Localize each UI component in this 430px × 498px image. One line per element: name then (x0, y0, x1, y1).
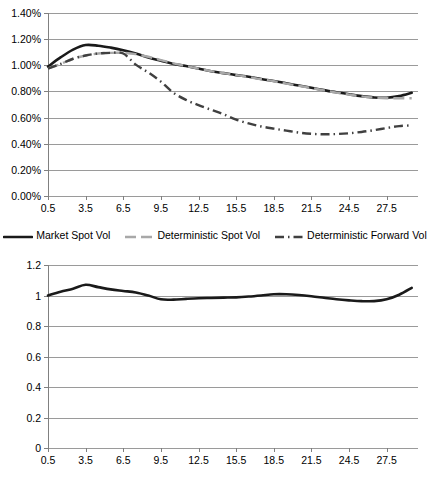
legend-swatch-icon (124, 229, 154, 241)
volatility-chart: 0.00%0.20%0.40%0.60%0.80%1.00%1.20%1.40%… (0, 0, 430, 250)
y-axis-tick-label: 1.2 (26, 259, 41, 271)
x-axis-tick-label: 9.5 (154, 202, 169, 214)
series-line (48, 52, 412, 134)
y-axis-tick-label: 0.80% (11, 85, 41, 97)
legend-swatch-icon (274, 229, 304, 241)
series-line (48, 285, 412, 302)
x-axis-tick-label: 18.5 (264, 454, 285, 466)
legend-label: Deterministic Spot Vol (157, 229, 260, 241)
x-axis-tick-label: 3.5 (78, 454, 93, 466)
x-axis-tick-label: 18.5 (264, 202, 285, 214)
x-axis-tick-label: 12.5 (188, 454, 209, 466)
volatility-chart-legend: Market Spot VolDeterministic Spot VolDet… (0, 229, 430, 241)
y-axis-tick-label: 0.00% (11, 190, 41, 202)
x-axis-tick-label: 6.5 (116, 202, 131, 214)
volatility-chart-plot: 0.00%0.20%0.40%0.60%0.80%1.00%1.20%1.40%… (0, 0, 430, 228)
x-axis-tick-label: 21.5 (301, 454, 322, 466)
x-axis-tick-label: 0.5 (41, 202, 56, 214)
y-axis-tick-label: 0.4 (26, 381, 41, 393)
x-axis-tick-label: 24.5 (339, 202, 360, 214)
x-axis-tick-label: 0.5 (41, 454, 56, 466)
x-axis-tick-label: 15.5 (226, 202, 247, 214)
legend-label: Market Spot Vol (36, 229, 110, 241)
correction-chart-plot: 00.20.40.60.811.20.53.56.59.512.515.518.… (0, 250, 430, 488)
correction-chart: 00.20.40.60.811.20.53.56.59.512.515.518.… (0, 250, 430, 498)
x-axis-tick-label: 21.5 (301, 202, 322, 214)
y-axis-tick-label: 0 (35, 442, 41, 454)
y-axis-tick-label: 0.8 (26, 320, 41, 332)
y-axis-tick-label: 0.6 (26, 351, 41, 363)
y-axis-tick-label: 0.2 (26, 412, 41, 424)
x-axis-tick-label: 24.5 (339, 454, 360, 466)
legend-label: Deterministic Forward Vol (307, 229, 427, 241)
x-axis-tick-label: 27.5 (376, 202, 397, 214)
y-axis-tick-label: 1.20% (11, 33, 41, 45)
legend-item[interactable]: Deterministic Forward Vol (274, 229, 427, 241)
y-axis-tick-label: 0.20% (11, 164, 41, 176)
y-axis-tick-label: 0.60% (11, 112, 41, 124)
legend-item[interactable]: Deterministic Spot Vol (124, 229, 260, 241)
x-axis-tick-label: 15.5 (226, 454, 247, 466)
x-axis-tick-label: 3.5 (78, 202, 93, 214)
legend-swatch-icon (3, 229, 33, 241)
y-axis-tick-label: 1.40% (11, 7, 41, 19)
x-axis-tick-label: 6.5 (116, 454, 131, 466)
y-axis-tick-label: 0.40% (11, 138, 41, 150)
x-axis-tick-label: 9.5 (154, 454, 169, 466)
x-axis-tick-label: 27.5 (376, 454, 397, 466)
y-axis-tick-label: 1.00% (11, 59, 41, 71)
y-axis-tick-label: 1 (35, 290, 41, 302)
x-axis-tick-label: 12.5 (188, 202, 209, 214)
legend-item[interactable]: Market Spot Vol (3, 229, 110, 241)
